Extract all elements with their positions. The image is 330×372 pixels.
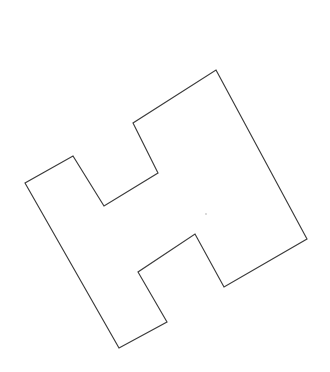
faint-interior-dot-icon xyxy=(205,213,207,215)
polygon-figure: Rotated H-shaped polygon outline xyxy=(0,0,330,372)
h-shape-outline xyxy=(25,70,307,348)
drawing-canvas: Rotated H-shaped polygon outline xyxy=(0,0,330,372)
